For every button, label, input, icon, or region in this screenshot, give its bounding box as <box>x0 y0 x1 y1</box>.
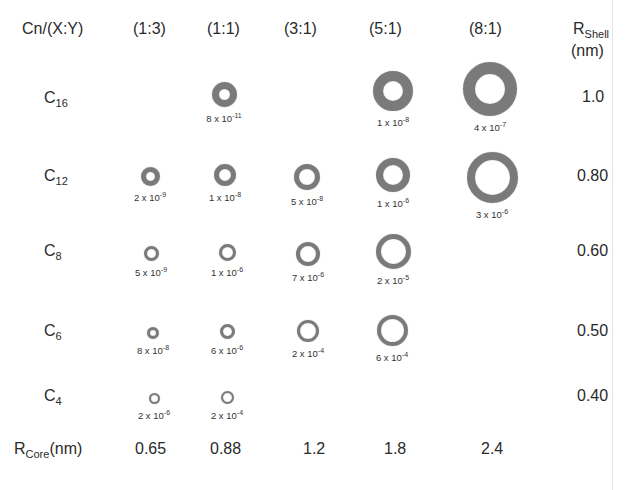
value-exponent: -4 <box>237 409 243 416</box>
cell-value-label: 2 x 10-4 <box>211 409 243 421</box>
core-shell-ring-icon <box>373 71 413 111</box>
value-exponent: -6 <box>318 271 324 278</box>
shell-radius-c16: 1.0 <box>582 88 604 106</box>
value-mantissa: 6 x 10 <box>376 352 402 363</box>
value-mantissa: 1 x 10 <box>209 192 235 203</box>
row-label-c6: C6 <box>44 322 62 342</box>
core-shell-ring-icon <box>141 167 160 186</box>
row-label-sub: 8 <box>56 250 62 262</box>
value-mantissa: 2 x 10 <box>292 348 318 359</box>
value-exponent: -11 <box>232 112 242 119</box>
core-radius-1-1: 0.88 <box>210 440 241 458</box>
value-exponent: -8 <box>235 191 241 198</box>
row-label-c16: C16 <box>44 89 68 109</box>
cell-value-label: 6 x 10-6 <box>211 344 243 356</box>
shell-radius-c6: 0.50 <box>577 322 608 340</box>
shell-radius-c8: 0.60 <box>577 242 608 260</box>
cell-value-label: 1 x 10-8 <box>209 191 241 203</box>
value-mantissa: 8 x 10 <box>137 345 163 356</box>
shell-radius-c4: 0.40 <box>577 387 608 405</box>
core-label-unit: (nm) <box>49 440 82 457</box>
cell-value-label: 1 x 10-6 <box>211 266 243 278</box>
value-mantissa: 1 x 10 <box>211 267 237 278</box>
row-label-c8: C8 <box>44 242 62 262</box>
value-mantissa: 2 x 10 <box>138 410 164 421</box>
core-shell-ring-icon <box>376 234 411 269</box>
row-label-main: C <box>44 242 56 259</box>
core-shell-ring-icon <box>149 393 160 404</box>
core-radius-3-1: 1.2 <box>303 440 325 458</box>
value-exponent: -6 <box>237 266 243 273</box>
value-exponent: -8 <box>403 116 409 123</box>
row-label-main: C <box>44 167 56 184</box>
corner-header-label: Cn/(X:Y) <box>22 20 83 38</box>
row-label-c4: C4 <box>44 387 62 407</box>
cell-value-label: 2 x 10-9 <box>134 191 166 203</box>
cell-value-label: 2 x 10-6 <box>138 409 170 421</box>
value-mantissa: 2 x 10 <box>377 275 403 286</box>
value-mantissa: 2 x 10 <box>134 192 160 203</box>
row-label-main: C <box>44 387 56 404</box>
value-mantissa: 5 x 10 <box>135 267 161 278</box>
cell-value-label: 4 x 10-7 <box>474 121 506 133</box>
shell-radius-header: RShell <box>573 20 609 40</box>
value-exponent: -9 <box>160 191 166 198</box>
value-mantissa: 4 x 10 <box>474 122 500 133</box>
ratio-header-1-1: (1:1) <box>207 20 240 38</box>
value-mantissa: 5 x 10 <box>291 196 317 207</box>
core-shell-ring-icon <box>377 315 408 346</box>
cell-value-label: 1 x 10-8 <box>377 116 409 128</box>
ratio-header-5-1: (5:1) <box>369 20 402 38</box>
value-exponent: -6 <box>237 344 243 351</box>
row-label-sub: 12 <box>56 175 68 187</box>
value-mantissa: 1 x 10 <box>377 117 403 128</box>
value-mantissa: 6 x 10 <box>211 345 237 356</box>
core-radius-label: RCore(nm) <box>14 440 82 460</box>
cell-value-label: 1 x 10-6 <box>377 197 409 209</box>
core-shell-ring-icon <box>294 164 320 190</box>
value-mantissa: 1 x 10 <box>377 198 403 209</box>
ratio-header-1-3: (1:3) <box>133 20 166 38</box>
row-label-sub: 6 <box>56 330 62 342</box>
shell-label-main: R <box>573 20 585 37</box>
row-label-main: C <box>44 89 56 106</box>
value-exponent: -9 <box>161 266 167 273</box>
core-radius-1-3: 0.65 <box>135 440 166 458</box>
core-shell-ring-icon <box>144 246 159 261</box>
shell-radius-c12: 0.80 <box>577 167 608 185</box>
cell-value-label: 5 x 10-9 <box>135 266 167 278</box>
core-shell-ring-icon <box>297 320 319 342</box>
ratio-header-3-1: (3:1) <box>284 20 317 38</box>
value-mantissa: 3 x 10 <box>476 209 502 220</box>
cell-value-label: 2 x 10-4 <box>292 347 324 359</box>
core-shell-ring-icon <box>221 391 234 404</box>
value-exponent: -5 <box>403 274 409 281</box>
value-exponent: -8 <box>163 344 169 351</box>
core-shell-ring-icon <box>296 242 320 266</box>
core-shell-ring-icon <box>214 164 236 186</box>
value-mantissa: 8 x 10 <box>206 113 232 124</box>
shell-label-sub: Shell <box>585 28 609 40</box>
core-shell-ring-icon <box>219 244 236 261</box>
core-shell-ring-icon <box>463 62 517 116</box>
ratio-header-8-1: (8:1) <box>469 20 502 38</box>
row-label-main: C <box>44 322 56 339</box>
core-label-main: R <box>14 440 26 457</box>
page-edge-divider <box>612 0 613 490</box>
value-mantissa: 2 x 10 <box>211 410 237 421</box>
value-exponent: -4 <box>402 351 408 358</box>
cell-value-label: 7 x 10-6 <box>292 271 324 283</box>
row-label-c12: C12 <box>44 167 68 187</box>
row-label-sub: 16 <box>56 97 68 109</box>
cell-value-label: 3 x 10-6 <box>476 208 508 220</box>
core-shell-ring-icon <box>376 158 410 192</box>
core-radius-5-1: 1.8 <box>384 440 406 458</box>
core-shell-ring-icon <box>220 324 235 339</box>
value-exponent: -6 <box>502 208 508 215</box>
cell-value-label: 5 x 10-8 <box>291 195 323 207</box>
shell-radius-unit: (nm) <box>571 42 604 60</box>
cell-value-label: 6 x 10-4 <box>376 351 408 363</box>
value-exponent: -6 <box>164 409 170 416</box>
value-mantissa: 7 x 10 <box>292 272 318 283</box>
core-label-sub: Core <box>26 448 50 460</box>
